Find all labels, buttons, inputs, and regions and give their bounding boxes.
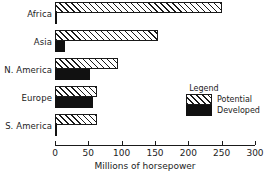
- legend-label-potential: Potential: [217, 94, 252, 105]
- category-label-s-america: S. America: [5, 121, 52, 131]
- horizontal-bar-chart: Africa Asia N. America Europe S. America…: [0, 0, 266, 177]
- x-axis-tick-100: [122, 141, 123, 145]
- legend-swatch-potential-icon: [186, 94, 212, 105]
- category-label-europe: Europe: [22, 93, 53, 103]
- x-axis-tick-50: [88, 141, 89, 145]
- bar-europe-potential: [55, 86, 97, 97]
- bar-n-america-potential: [55, 58, 118, 69]
- x-axis-line: [55, 145, 255, 146]
- x-axis-tick-label-300: 300: [246, 148, 263, 158]
- x-axis-tick-250: [222, 141, 223, 145]
- x-axis-tick-0: [55, 141, 56, 145]
- x-axis-tick-200: [188, 141, 189, 145]
- x-axis-tick-label-50: 50: [83, 148, 94, 158]
- x-axis-tick-label-200: 200: [180, 148, 197, 158]
- legend-swatch-developed-icon: [186, 105, 212, 116]
- x-axis-tick-300: [255, 141, 256, 145]
- legend-title: Legend: [172, 84, 236, 94]
- bar-africa-developed: [55, 13, 57, 24]
- bar-asia-potential: [55, 30, 158, 41]
- x-axis-tick-label-250: 250: [213, 148, 230, 158]
- x-axis-tick-label-100: 100: [113, 148, 130, 158]
- legend-label-developed: Developed: [217, 105, 260, 116]
- bar-asia-developed: [55, 41, 65, 52]
- bar-s-america-potential: [55, 114, 97, 125]
- x-axis-tick-label-150: 150: [146, 148, 163, 158]
- category-label-asia: Asia: [34, 37, 52, 47]
- legend: Legend Potential Developed: [170, 84, 262, 116]
- bar-n-america-developed: [55, 69, 90, 80]
- x-axis-tick-150: [155, 141, 156, 145]
- x-axis-tick-label-0: 0: [52, 148, 58, 158]
- x-axis-title: Millions of horsepower: [0, 161, 266, 172]
- category-label-africa: Africa: [27, 9, 52, 19]
- bar-africa-potential: [55, 2, 222, 13]
- bar-s-america-developed: [55, 125, 57, 136]
- category-label-n-america: N. America: [4, 65, 52, 75]
- legend-row-developed: Developed: [170, 105, 262, 116]
- bar-europe-developed: [55, 97, 93, 108]
- legend-row-potential: Potential: [170, 94, 262, 105]
